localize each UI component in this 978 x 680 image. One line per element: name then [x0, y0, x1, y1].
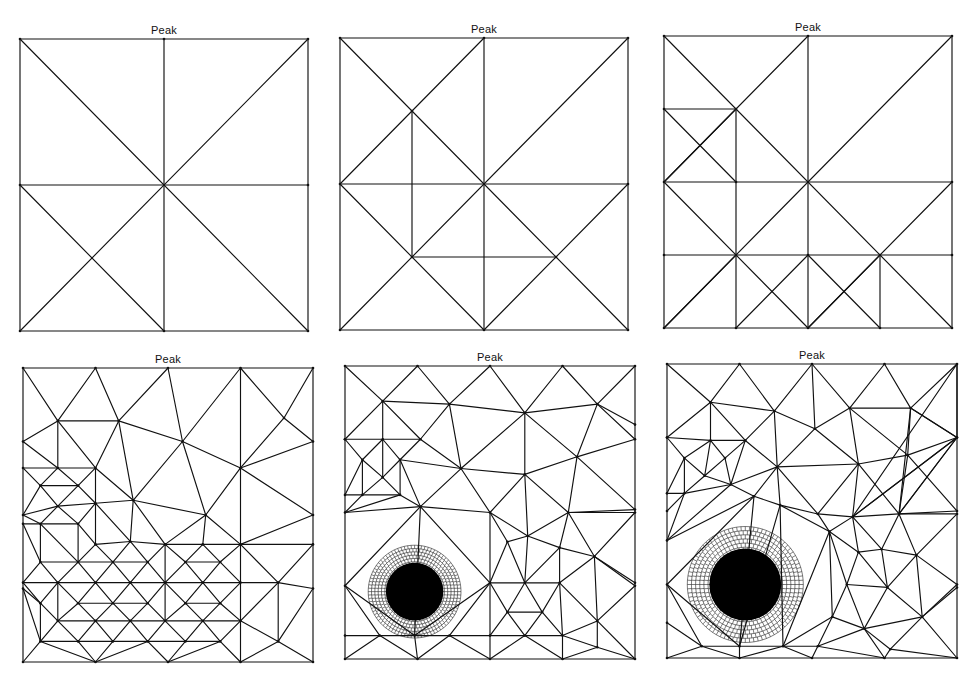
triangular-mesh — [667, 364, 957, 658]
mesh-panel-3: Peak — [664, 20, 952, 328]
triangular-mesh — [340, 38, 628, 330]
mesh-panel-2: Peak — [340, 22, 628, 330]
triangular-mesh — [23, 368, 313, 662]
panel-title: Peak — [340, 23, 628, 35]
triangular-mesh — [345, 366, 635, 659]
panel-title: Peak — [667, 349, 957, 361]
triangular-mesh — [20, 39, 308, 331]
mesh-panel-6: Peak — [667, 348, 957, 658]
panel-title: Peak — [20, 24, 308, 36]
panel-title: Peak — [664, 21, 952, 33]
mesh-panel-5: Peak — [345, 350, 635, 659]
panel-title: Peak — [345, 351, 635, 363]
mesh-panel-1: Peak — [20, 23, 308, 331]
mesh-panel-4: Peak — [23, 352, 313, 662]
triangular-mesh — [664, 36, 952, 328]
panel-title: Peak — [23, 353, 313, 365]
